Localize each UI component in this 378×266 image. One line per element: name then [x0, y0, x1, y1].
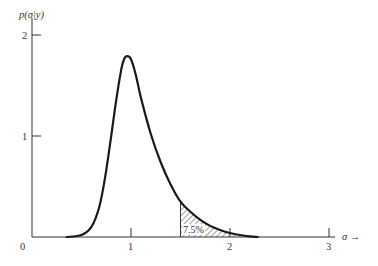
y-axis-label: p(σ|y) — [18, 9, 44, 21]
density-curve — [67, 56, 258, 237]
y-tick-label: 2 — [22, 30, 27, 41]
posterior-density-chart: 12312 p(σ|y) σ → 0 7.5% — [0, 0, 378, 266]
x-tick-label: 1 — [128, 241, 133, 252]
x-axis-label: σ → — [342, 231, 360, 242]
tail-probability-label: 7.5% — [183, 224, 204, 235]
y-tick-label: 1 — [22, 131, 27, 142]
ticks: 12312 — [22, 30, 331, 252]
x-tick-label: 2 — [227, 241, 232, 252]
origin-label: 0 — [20, 241, 25, 252]
x-tick-label: 3 — [326, 241, 331, 252]
